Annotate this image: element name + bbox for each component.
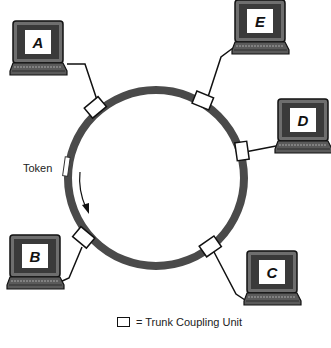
computer-e-label: E bbox=[255, 13, 266, 30]
tcu-d bbox=[235, 141, 249, 160]
link-c bbox=[214, 252, 245, 300]
computer-a: A bbox=[10, 21, 67, 75]
computer-d-label: D bbox=[298, 112, 309, 129]
link-a bbox=[67, 64, 98, 103]
tcu-b bbox=[73, 227, 95, 249]
token-ring-diagram: A E D B C bbox=[0, 0, 331, 348]
computer-c: C bbox=[244, 251, 301, 305]
tcu-e bbox=[192, 91, 214, 110]
link-b bbox=[60, 247, 82, 282]
computer-b: B bbox=[7, 235, 64, 289]
link-e bbox=[207, 48, 233, 100]
tcu-legend-icon bbox=[117, 317, 130, 327]
tcu-a bbox=[84, 97, 106, 119]
computer-a-label: A bbox=[32, 34, 44, 51]
link-d bbox=[245, 146, 276, 152]
legend: = Trunk Coupling Unit bbox=[117, 316, 242, 328]
computer-d: D bbox=[275, 99, 331, 153]
computer-b-label: B bbox=[30, 248, 41, 265]
token-label: Token bbox=[23, 162, 52, 174]
computer-e: E bbox=[232, 0, 289, 54]
computer-c-label: C bbox=[267, 264, 279, 281]
legend-text: = Trunk Coupling Unit bbox=[136, 316, 242, 328]
direction-arrow-icon bbox=[80, 172, 89, 214]
